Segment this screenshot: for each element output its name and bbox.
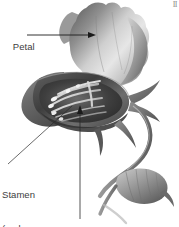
label-pistil-cropped: Pistil xyxy=(73,220,104,227)
label-stamen-line2: (makes sperm- xyxy=(2,223,66,227)
label-petal-text: Petal xyxy=(13,41,35,52)
label-stamen: Stamen (makes sperm- producing pollen) xyxy=(2,167,66,227)
rose-anatomy-figure: Petal Stamen (makes sperm- producing pol… xyxy=(0,0,179,227)
label-petal: Petal xyxy=(2,30,35,64)
label-stamen-line1: Stamen xyxy=(2,189,66,200)
page-corner-mark: II xyxy=(173,0,177,9)
